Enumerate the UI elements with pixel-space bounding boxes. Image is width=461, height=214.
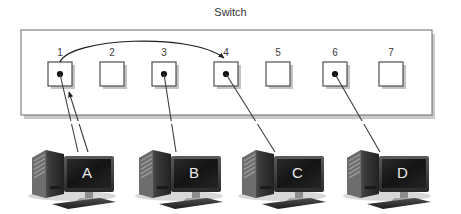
tower-side (242, 150, 256, 198)
tower-vent (50, 186, 61, 189)
computer-tower (347, 150, 379, 198)
port-label-7: 7 (379, 47, 403, 58)
monitor-neck (400, 192, 408, 199)
switch-port-7[interactable] (379, 62, 406, 89)
tower-vent (260, 186, 271, 189)
port-box[interactable] (100, 62, 124, 86)
computer-B[interactable] (135, 150, 223, 209)
tower-vent (157, 186, 168, 189)
tower-side (139, 150, 153, 198)
switch-port-5[interactable] (266, 62, 293, 89)
computer-letter-B: B (189, 164, 199, 181)
monitor-neck (192, 192, 200, 199)
computer-tower (32, 150, 64, 198)
computer-letter-A: A (82, 164, 92, 181)
computer-letter-D: D (397, 164, 408, 181)
computer-letter-C: C (292, 164, 303, 181)
port-label-6: 6 (323, 47, 347, 58)
tower-side (32, 150, 46, 198)
computer-C[interactable] (238, 150, 326, 209)
monitor-neck (85, 192, 93, 199)
monitor-neck (295, 192, 303, 199)
port-label-4: 4 (214, 47, 238, 58)
floor-band (0, 121, 461, 124)
computer-tower (242, 150, 274, 198)
port-label-1: 1 (48, 47, 72, 58)
computer-tower (139, 150, 171, 198)
port-label-3: 3 (152, 47, 176, 58)
tower-vent (365, 186, 376, 189)
computer-A[interactable] (28, 150, 116, 209)
diagram-canvas: Switch (0, 0, 461, 214)
port-box[interactable] (379, 62, 403, 86)
switch-port-1[interactable] (48, 62, 75, 89)
port-box[interactable] (266, 62, 290, 86)
computer-D[interactable] (343, 150, 431, 209)
port-label-5: 5 (266, 47, 290, 58)
scene-svg (0, 0, 461, 214)
tower-side (347, 150, 361, 198)
switch-port-2[interactable] (100, 62, 127, 89)
port-label-2: 2 (100, 47, 124, 58)
